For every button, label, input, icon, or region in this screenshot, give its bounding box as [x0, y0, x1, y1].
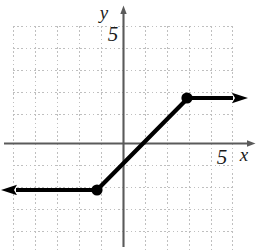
x-axis-label: x [239, 144, 249, 165]
figure-background [0, 0, 258, 251]
x-axis-tick-label-5: 5 [217, 145, 228, 169]
y-axis-tick-label-5: 5 [108, 22, 119, 46]
graph-figure: y x 5 5 [0, 0, 258, 251]
coordinate-plane-svg: y x 5 5 [0, 0, 258, 251]
function-endpoint-dot-left [91, 184, 102, 195]
function-endpoint-dot-right [181, 92, 192, 103]
y-axis-label: y [98, 2, 109, 23]
